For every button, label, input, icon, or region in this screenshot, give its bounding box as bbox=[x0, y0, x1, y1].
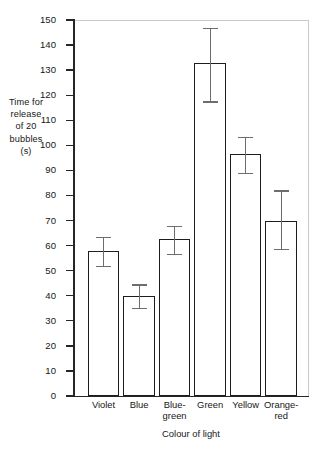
y-axis-tick bbox=[66, 69, 73, 70]
y-axis-tick bbox=[66, 295, 73, 296]
error-bar-cap-lower bbox=[167, 254, 182, 255]
x-axis-tick-label-line: green bbox=[145, 410, 205, 421]
y-axis-tick-label: 70 bbox=[0, 216, 66, 226]
y-axis-tick-label-text: 50 bbox=[0, 266, 66, 276]
y-axis-tick-label: 100 bbox=[0, 140, 66, 150]
y-axis-tick bbox=[66, 270, 73, 271]
y-axis-tick-label-text: 120 bbox=[0, 90, 66, 100]
error-bar-cap-upper bbox=[132, 284, 147, 285]
y-axis-tick-label: 40 bbox=[0, 291, 66, 301]
error-bar-cap-lower bbox=[274, 249, 289, 250]
y-axis-tick-label-text: 130 bbox=[0, 65, 66, 75]
y-axis-tick-label-text: 70 bbox=[0, 216, 66, 226]
error-bar-stem bbox=[103, 237, 104, 266]
error-bar-stem bbox=[210, 28, 211, 102]
y-axis-tick-label-text: 40 bbox=[0, 291, 66, 301]
y-axis-tick bbox=[66, 195, 73, 196]
y-axis-tick bbox=[66, 245, 73, 246]
error-bar-stem bbox=[245, 137, 246, 173]
y-axis-tick-label: 90 bbox=[0, 165, 66, 175]
error-bar-cap-lower bbox=[96, 266, 111, 267]
y-axis-tick-label-text: 100 bbox=[0, 140, 66, 150]
y-axis-tick-label-text: 30 bbox=[0, 316, 66, 326]
y-axis-tick bbox=[66, 345, 73, 346]
y-axis-tick bbox=[66, 44, 73, 45]
error-bar-cap-upper bbox=[203, 28, 218, 29]
error-bar-cap-lower bbox=[132, 308, 147, 309]
y-axis-tick-label: 10 bbox=[0, 366, 66, 376]
y-axis-tick bbox=[66, 320, 73, 321]
y-axis-tick-label-text: 0 bbox=[0, 391, 66, 401]
y-axis-tick-label: 110 bbox=[0, 115, 66, 125]
y-axis-tick-label: 20 bbox=[0, 341, 66, 351]
bar-chart-figure: Time for release of 20 bubbles (s) 01020… bbox=[0, 0, 329, 455]
y-axis-tick-label: 130 bbox=[0, 65, 66, 75]
bar bbox=[123, 296, 155, 396]
error-bar-stem bbox=[174, 226, 175, 255]
x-axis-tick-label-line: red bbox=[251, 410, 311, 421]
y-axis-tick-label: 30 bbox=[0, 316, 66, 326]
y-axis-tick-label-text: 60 bbox=[0, 241, 66, 251]
y-axis-tick bbox=[66, 95, 73, 96]
error-bar-cap-upper bbox=[96, 237, 111, 238]
x-axis-title: Colour of light bbox=[73, 428, 309, 439]
error-bar-cap-lower bbox=[203, 101, 218, 102]
error-bar-stem bbox=[281, 190, 282, 249]
y-axis-tick-label: 50 bbox=[0, 266, 66, 276]
x-axis-tick-label: Orange-red bbox=[251, 399, 311, 422]
bar bbox=[88, 251, 120, 396]
error-bar-cap-upper bbox=[167, 226, 182, 227]
y-axis-tick-label: 80 bbox=[0, 190, 66, 200]
y-axis-tick-label-text: 150 bbox=[0, 15, 66, 25]
y-axis-tick-label: 0 bbox=[0, 391, 66, 401]
bar bbox=[194, 63, 226, 396]
error-bar-cap-upper bbox=[274, 190, 289, 191]
bar bbox=[230, 154, 262, 396]
y-axis-tick-label-text: 10 bbox=[0, 366, 66, 376]
y-axis-tick-label-text: 90 bbox=[0, 165, 66, 175]
x-axis-tick-label-line: Orange- bbox=[251, 399, 311, 410]
y-axis-tick-label-text: 20 bbox=[0, 341, 66, 351]
y-axis-tick-label: 120 bbox=[0, 90, 66, 100]
y-axis-tick bbox=[66, 395, 73, 396]
y-axis-tick-label: 60 bbox=[0, 241, 66, 251]
error-bar-cap-lower bbox=[238, 173, 253, 174]
y-axis-tick-label-text: 80 bbox=[0, 190, 66, 200]
y-axis-tick-label-text: 140 bbox=[0, 40, 66, 50]
y-axis-tick bbox=[66, 370, 73, 371]
error-bar-cap-upper bbox=[238, 137, 253, 138]
y-axis-tick bbox=[66, 145, 73, 146]
bar bbox=[159, 239, 191, 396]
y-axis-tick bbox=[66, 170, 73, 171]
y-axis-tick bbox=[66, 220, 73, 221]
y-axis-tick-label: 140 bbox=[0, 40, 66, 50]
y-axis-tick-label-text: 110 bbox=[0, 115, 66, 125]
y-axis-line bbox=[73, 19, 75, 397]
y-axis-tick bbox=[66, 120, 73, 121]
y-axis-tick bbox=[66, 19, 73, 20]
error-bar-stem bbox=[139, 284, 140, 308]
y-axis-tick-label: 150 bbox=[0, 15, 66, 25]
